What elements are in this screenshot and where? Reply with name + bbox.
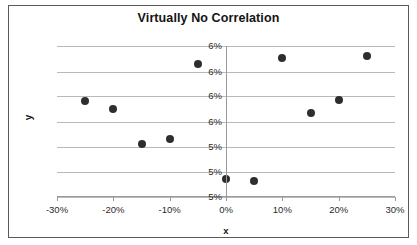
data-point	[363, 52, 371, 60]
x-axis-tick-mark	[57, 197, 58, 201]
x-axis-tick-label: 10%	[262, 205, 302, 215]
x-axis-title: x	[206, 225, 246, 236]
y-axis-tick-label: 5%	[188, 192, 222, 202]
y-axis-title: y	[23, 108, 34, 128]
x-axis-tick-label: 20%	[319, 205, 359, 215]
x-axis-tick-label: -30%	[37, 205, 77, 215]
x-axis-tick-mark	[170, 197, 171, 201]
data-point	[166, 135, 174, 143]
data-point	[81, 97, 89, 105]
y-axis-tick-label: 6%	[188, 41, 222, 51]
y-axis-tick-label: 5%	[188, 142, 222, 152]
x-axis-tick-mark	[339, 197, 340, 201]
data-point	[278, 54, 286, 62]
x-axis-tick-label: -10%	[150, 205, 190, 215]
data-point	[109, 105, 117, 113]
chart-title: Virtually No Correlation	[0, 11, 417, 25]
x-axis-tick-label: -20%	[93, 205, 133, 215]
y-axis-tick-label: 6%	[188, 91, 222, 101]
data-point	[250, 177, 258, 185]
y-axis-line	[226, 46, 227, 197]
x-axis-tick-mark	[226, 197, 227, 201]
x-axis-tick-mark	[282, 197, 283, 201]
x-axis-tick-mark	[395, 197, 396, 201]
y-axis-tick-label: 5%	[188, 167, 222, 177]
data-point	[138, 140, 146, 148]
x-axis-tick-mark	[113, 197, 114, 201]
data-point	[307, 109, 315, 117]
data-point	[335, 96, 343, 104]
x-axis-tick-label: 0%	[206, 205, 246, 215]
chart-container: Virtually No Correlation -30%-20%-10%0%1…	[0, 0, 417, 245]
x-axis-tick-label: 30%	[375, 205, 415, 215]
y-axis-tick-label: 6%	[188, 67, 222, 77]
y-axis-tick-label: 6%	[188, 117, 222, 127]
